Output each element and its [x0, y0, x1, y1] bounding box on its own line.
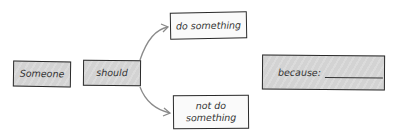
node-do-something: do something: [170, 11, 247, 39]
fill-in-blank-line: [325, 68, 383, 78]
node-label: because:: [278, 66, 321, 78]
node-not-do-something: not do something: [173, 95, 249, 130]
node-someone: Someone: [13, 61, 71, 88]
node-label: not do something: [186, 100, 236, 124]
diagram-canvas: Someone should do something not do somet…: [0, 0, 399, 136]
node-label: Someone: [20, 68, 65, 81]
node-label: do something: [176, 19, 241, 32]
node-label: should: [96, 67, 128, 79]
node-because: because:: [262, 55, 385, 91]
node-should: should: [83, 60, 141, 87]
